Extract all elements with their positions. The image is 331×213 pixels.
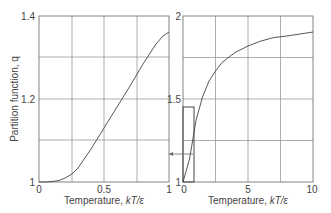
right-xtick-10: 10 [306, 184, 318, 195]
left-ytick-1.2: 1.2 [21, 94, 35, 105]
left-xlabel: Temperature, kT/ε [64, 195, 145, 206]
left-ytick-1: 1 [29, 177, 35, 188]
left-xtick-0: 0 [36, 184, 42, 195]
ylabel: Partition function, q [9, 56, 20, 142]
right-xlabel: Temperature, kT/ε [208, 195, 289, 206]
left-ytick-1.4: 1.4 [21, 11, 35, 22]
left-xtick-0.5: 0.5 [97, 184, 111, 195]
left-grid [39, 16, 169, 182]
left-xtick-1: 1 [166, 184, 172, 195]
right-xtick-5: 5 [245, 184, 251, 195]
right-grid [183, 16, 313, 182]
left-panel: 1.4 1.2 1 0 0.5 1 Temperature, kT/ε Part… [9, 11, 172, 206]
right-xtick-0: 0 [181, 184, 187, 195]
right-ytick-2: 2 [175, 11, 181, 22]
chart-canvas: 1.4 1.2 1 0 0.5 1 Temperature, kT/ε Part… [0, 0, 331, 213]
arrow-left-icon [169, 152, 173, 156]
right-panel: 2 1.5 1 0 5 10 Temperature, kT/ε [167, 11, 318, 206]
right-ytick-1.5: 1.5 [167, 94, 181, 105]
